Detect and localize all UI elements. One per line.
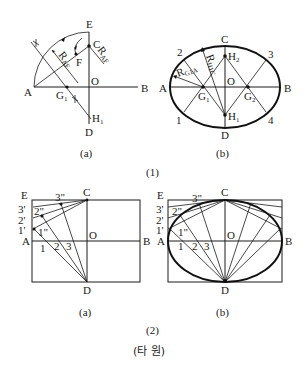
label-a: A (22, 235, 30, 247)
point-g2 (246, 85, 250, 89)
label-2pp: 2" (34, 205, 44, 217)
caption-group-1: (1) (146, 166, 159, 179)
point-c (87, 44, 91, 48)
label-1: 1 (178, 240, 184, 252)
label-2pp: 2" (172, 205, 182, 217)
panel-2a: E C 3" 3' 2" 2' 1' 1" A O B 1 2 3 D (a) (18, 186, 150, 319)
label-4: 4 (268, 114, 274, 126)
label-d: D (85, 126, 93, 138)
ray-d-3-right (225, 203, 251, 282)
label-h1: H1 (228, 110, 240, 124)
caption-group-2: (2) (146, 324, 159, 337)
point-c (86, 199, 89, 202)
label-c: C (221, 186, 228, 198)
label-3: 3 (268, 48, 274, 60)
label-r-h1c: RH1C (202, 53, 222, 77)
label-b: B (141, 82, 148, 94)
label-r-left: RAF (55, 49, 76, 71)
label-3: 3 (66, 240, 72, 252)
label-b: B (284, 82, 291, 94)
ray-c-2p-right (225, 200, 282, 218)
label-1: 1 (176, 114, 182, 126)
label-g1: G1 (56, 89, 68, 103)
label-e: E (86, 18, 93, 30)
label-o: O (227, 229, 235, 241)
label-d: D (221, 284, 229, 296)
label-2: 2 (177, 46, 183, 58)
label-a: A (159, 82, 167, 94)
label-c: C (221, 33, 228, 45)
label-h1: H1 (92, 112, 104, 126)
point-h2 (223, 54, 227, 58)
point-g1 (65, 85, 68, 88)
label-o: O (91, 75, 99, 87)
label-2: 2 (54, 240, 60, 252)
ray-d-3 (61, 204, 87, 282)
ray-d-2 (42, 216, 87, 282)
point-h1 (223, 113, 227, 117)
caption-1a: (a) (80, 147, 93, 160)
label-1pp: 1" (38, 226, 48, 238)
label-d: D (221, 129, 229, 141)
label-h2: H2 (228, 50, 240, 64)
arrowhead-g1 (173, 75, 177, 79)
label-a: A (24, 86, 32, 98)
label-d: D (83, 284, 91, 296)
caption-1b: (b) (216, 147, 229, 160)
caption-2b: (b) (216, 306, 229, 319)
label-b: B (143, 235, 150, 247)
label-g2: G2 (244, 90, 256, 104)
point-g1 (201, 85, 205, 89)
label-o: O (227, 75, 235, 87)
point-1pp (32, 227, 35, 230)
ray-d-3-left (199, 203, 225, 282)
label-a: A (157, 235, 165, 247)
label-3pp: 3" (55, 191, 65, 203)
label-e: E (157, 189, 164, 201)
figure-title: (타 원) (133, 345, 165, 358)
label-c: C (83, 186, 90, 198)
panel-1a: E C F O A B G1 H1 D RAF RAF (a) (24, 18, 148, 160)
panel-1b: C H2 2 3 A O B G1 G2 1 4 H1 D RG1A RH1C … (159, 33, 291, 160)
label-b: B (285, 235, 292, 247)
ellipse-construction-figure: E C F O A B G1 H1 D RAF RAF (a) C H2 2 (0, 0, 308, 377)
caption-2a: (a) (79, 306, 92, 319)
point-d (223, 279, 227, 283)
panel-2b: E C 3" 3' 2" 2' 1' 1" A O B 1 2 3 D (b) (156, 186, 292, 319)
label-1pp: 1" (178, 226, 188, 238)
line-h2-1 (184, 56, 225, 112)
label-o: O (89, 229, 97, 241)
label-3pp: 3" (192, 192, 202, 204)
label-3: 3 (204, 240, 210, 252)
label-2: 2 (192, 240, 198, 252)
label-f: F (76, 56, 82, 68)
label-1: 1 (40, 242, 46, 254)
label-e: E (21, 189, 28, 201)
